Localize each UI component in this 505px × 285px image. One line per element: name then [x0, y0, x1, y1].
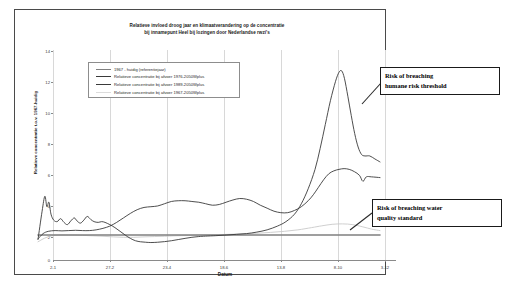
x-tick-label: 2-1: [38, 265, 68, 270]
y-tick-mark: [51, 144, 53, 145]
x-tick-mark: [53, 260, 54, 262]
gridline-vertical: [53, 50, 54, 261]
y-tick-mark: [51, 113, 53, 114]
y-tick-label: 0: [34, 258, 50, 263]
y-tick-mark: [51, 51, 53, 52]
y-axis-title: Relatieve concentratie t.o.v. 1967-huidi…: [33, 68, 38, 198]
chart-figure-frame: Relatieve invloed droog jaar en klimaatv…: [14, 9, 386, 275]
chart-screenshot-root: Relatieve invloed droog jaar en klimaatv…: [0, 0, 505, 285]
y-tick-mark: [51, 175, 53, 176]
annotation-risk-human: Risk of breaching humane risk threshold: [380, 67, 500, 95]
x-tick-mark: [224, 260, 225, 262]
x-tick-mark: [110, 260, 111, 262]
legend-item: Relatieve concentratie bij afvoer 1989-2…: [92, 81, 236, 89]
legend-label-series-0: 1967 - huidig (referentiejaar): [114, 67, 166, 72]
y-tick-label: 4: [34, 204, 50, 209]
x-tick-mark: [167, 260, 168, 262]
chart-title-line1: Relatieve invloed droog jaar en klimaatv…: [130, 23, 285, 28]
annotation-risk-water-quality: Risk of breaching water quality standard: [372, 199, 502, 227]
gridline-vertical: [338, 50, 339, 261]
x-tick-mark: [385, 260, 386, 262]
x-tick-mark: [281, 260, 282, 262]
legend-swatch-series-2: [96, 84, 111, 85]
legend-item: 1967 - huidig (referentiejaar): [92, 66, 236, 74]
chart-legend: 1967 - huidig (referentiejaar) Relatieve…: [88, 62, 240, 98]
y-tick-mark: [51, 206, 53, 207]
annotation-risk-human-line2: humane risk threshold: [385, 81, 495, 91]
legend-item: Relatieve concentratie bij afvoer 1967-2…: [92, 88, 236, 96]
y-tick-label: 2: [34, 235, 50, 240]
legend-swatch-series-3: [96, 92, 111, 93]
x-axis-title: Datum: [135, 272, 315, 277]
x-tick-label: 27-2: [95, 265, 125, 270]
legend-label-series-3: Relatieve concentratie bij afvoer 1967-2…: [114, 90, 204, 95]
y-tick-label: 14: [34, 49, 50, 54]
x-tick-label: 13-8: [266, 265, 296, 270]
x-tick-mark: [338, 260, 339, 262]
legend-label-series-1: Relatieve concentratie bij afvoer 1976-2…: [114, 74, 204, 79]
x-tick-label: 3-12: [370, 265, 400, 270]
chart-title-line2: bij innamepunt Heel bij lozingen door Ne…: [67, 29, 347, 36]
annotation-risk-water-quality-line2: quality standard: [377, 213, 497, 223]
x-tick-label: 23-4: [152, 265, 182, 270]
y-tick-mark: [51, 237, 53, 238]
legend-swatch-series-1: [96, 76, 111, 77]
legend-swatch-series-0: [96, 69, 111, 70]
gridline-vertical: [281, 50, 282, 261]
legend-item: Relatieve concentratie bij afvoer 1976-2…: [92, 73, 236, 81]
y-tick-mark: [51, 82, 53, 83]
chart-title: Relatieve invloed droog jaar en klimaatv…: [67, 22, 347, 36]
x-tick-label: 8-10: [323, 265, 353, 270]
annotation-risk-water-quality-line1: Risk of breaching water: [377, 204, 442, 211]
legend-label-series-2: Relatieve concentratie bij afvoer 1989-2…: [114, 82, 204, 87]
annotation-risk-human-line1: Risk of breaching: [385, 72, 433, 79]
x-tick-label: 18-6: [209, 265, 239, 270]
